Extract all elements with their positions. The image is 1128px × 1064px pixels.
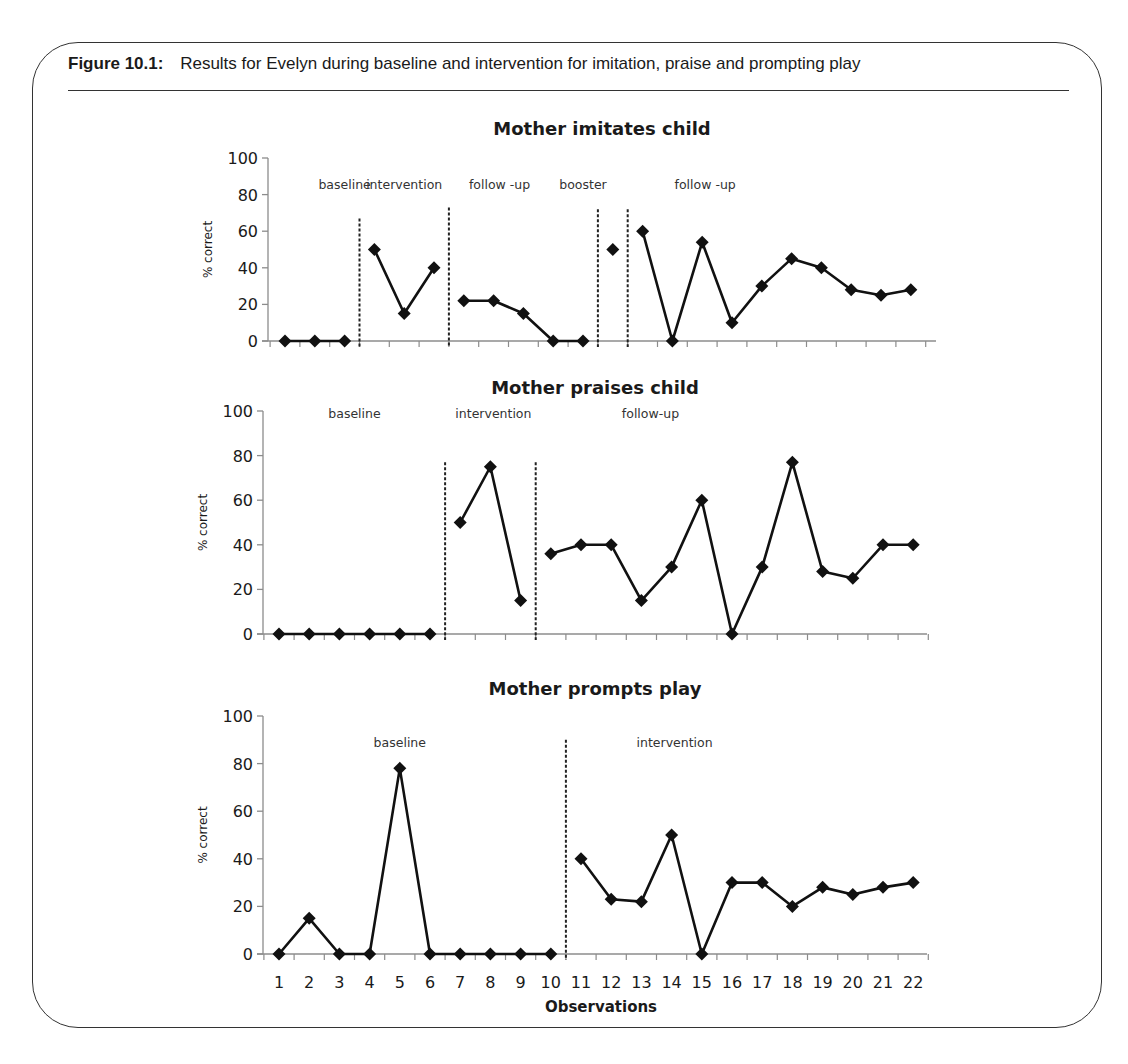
data-point-diamond: [428, 261, 441, 274]
x-tick-label: 13: [631, 973, 651, 992]
x-tick-label: 20: [843, 973, 863, 992]
x-tick-label: 12: [601, 973, 621, 992]
x-tick-label: 19: [812, 973, 832, 992]
y-tick-label: 80: [233, 755, 253, 774]
data-point-diamond: [514, 948, 527, 961]
x-tick-label: 8: [485, 973, 495, 992]
data-line-follow-up: [551, 462, 913, 634]
x-tick-label: 11: [571, 973, 591, 992]
data-point-diamond: [393, 628, 406, 641]
y-tick-label: 0: [243, 625, 253, 644]
y-axis-title: % correct: [196, 494, 210, 552]
data-point-diamond: [424, 628, 437, 641]
chart-1: Mother imitates child020406080100% corre…: [201, 118, 936, 351]
data-point-diamond: [273, 628, 286, 641]
data-point-diamond: [279, 335, 292, 348]
chart-3: Mother prompts play020406080100% correct…: [196, 678, 928, 1016]
data-point-diamond: [484, 948, 497, 961]
data-line-follow-up: [643, 231, 911, 341]
x-tick-label: 14: [661, 973, 681, 992]
data-point-diamond: [454, 516, 467, 529]
data-point-diamond: [907, 538, 920, 551]
phase-label: intervention: [637, 735, 713, 750]
y-tick-label: 20: [233, 580, 253, 599]
x-tick-label: 10: [541, 973, 561, 992]
phase-label: follow -up: [675, 177, 736, 192]
data-point-diamond: [695, 948, 708, 961]
y-tick-label: 60: [233, 491, 253, 510]
x-tick-label: 3: [334, 973, 344, 992]
y-tick-label: 80: [238, 186, 258, 205]
phase-label: follow -up: [469, 177, 530, 192]
phase-label: baseline: [328, 406, 381, 421]
x-tick-label: 7: [455, 973, 465, 992]
x-axis-title: Observations: [545, 998, 657, 1016]
data-point-diamond: [338, 335, 351, 348]
data-line-intervention: [374, 250, 434, 314]
y-axis-title: % correct: [201, 221, 215, 279]
data-line-intervention: [460, 467, 520, 601]
x-tick-label: 6: [425, 973, 435, 992]
data-point-diamond: [457, 294, 470, 307]
y-tick-label: 20: [238, 295, 258, 314]
y-tick-label: 60: [238, 222, 258, 241]
y-tick-label: 100: [227, 149, 258, 168]
data-point-diamond: [726, 876, 739, 889]
x-tick-label: 5: [395, 973, 405, 992]
chart-title: Mother prompts play: [489, 678, 702, 699]
data-point-diamond: [363, 628, 376, 641]
data-point-diamond: [454, 948, 467, 961]
data-point-diamond: [904, 283, 917, 296]
y-tick-label: 40: [233, 536, 253, 555]
chart-title: Mother praises child: [491, 377, 699, 398]
phase-label: booster: [559, 177, 607, 192]
y-tick-label: 20: [233, 897, 253, 916]
y-tick-label: 0: [248, 332, 258, 351]
y-axis-title: % correct: [196, 806, 210, 864]
x-tick-label: 9: [516, 973, 526, 992]
data-point-diamond: [695, 494, 708, 507]
data-point-diamond: [487, 294, 500, 307]
data-point-diamond: [544, 547, 557, 560]
data-point-diamond: [606, 243, 619, 256]
data-point-diamond: [816, 881, 829, 894]
x-tick-label: 1: [274, 973, 284, 992]
data-point-diamond: [424, 948, 437, 961]
data-point-diamond: [514, 594, 527, 607]
x-tick-label: 16: [722, 973, 742, 992]
data-point-diamond: [726, 628, 739, 641]
data-point-diamond: [846, 888, 859, 901]
data-point-diamond: [363, 948, 376, 961]
y-tick-label: 0: [243, 945, 253, 964]
data-point-diamond: [484, 460, 497, 473]
y-tick-label: 40: [238, 259, 258, 278]
data-line-intervention: [581, 835, 913, 954]
data-point-diamond: [666, 335, 679, 348]
data-point-diamond: [577, 335, 590, 348]
phase-label: baseline: [318, 177, 371, 192]
x-tick-label: 15: [692, 973, 712, 992]
data-point-diamond: [398, 307, 411, 320]
data-point-diamond: [816, 565, 829, 578]
y-tick-label: 60: [233, 802, 253, 821]
chart-2: Mother praises child020406080100% correc…: [196, 377, 928, 644]
phase-label: baseline: [374, 735, 427, 750]
x-tick-label: 4: [365, 973, 375, 992]
x-tick-label: 18: [782, 973, 802, 992]
y-tick-label: 80: [233, 447, 253, 466]
data-point-diamond: [875, 289, 888, 302]
data-point-diamond: [303, 628, 316, 641]
phase-label: follow-up: [622, 406, 679, 421]
chart-title: Mother imitates child: [493, 118, 710, 139]
data-point-diamond: [636, 225, 649, 238]
data-point-diamond: [907, 876, 920, 889]
data-point-diamond: [635, 895, 648, 908]
data-point-diamond: [696, 236, 709, 249]
data-point-diamond: [877, 881, 890, 894]
data-point-diamond: [786, 456, 799, 469]
data-line-follow-up: [464, 301, 583, 341]
y-tick-label: 40: [233, 850, 253, 869]
x-tick-label: 21: [873, 973, 893, 992]
data-point-diamond: [575, 538, 588, 551]
data-point-diamond: [544, 948, 557, 961]
